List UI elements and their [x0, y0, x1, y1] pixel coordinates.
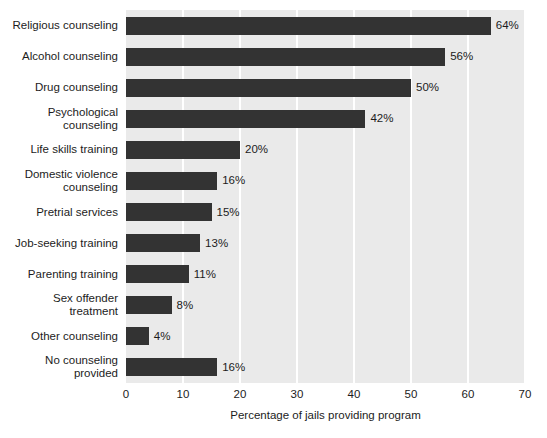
x-tick-label: 50: [405, 388, 418, 401]
category-label: Religious counseling: [0, 19, 118, 32]
x-tick-label: 60: [462, 388, 475, 401]
bar-row: No counseling provided16%: [0, 352, 547, 383]
bar-row: Domestic violence counseling16%: [0, 165, 547, 196]
bar-row: Life skills training20%: [0, 134, 547, 165]
bar-row: Parenting training11%: [0, 259, 547, 290]
bar-value-label: 64%: [496, 19, 519, 32]
bar: [126, 203, 212, 221]
bar-value-label: 56%: [450, 50, 473, 63]
bar-row: Other counseling4%: [0, 321, 547, 352]
bar: [126, 172, 217, 190]
bar: [126, 358, 217, 376]
bar: [126, 48, 445, 66]
bar-row: Drug counseling50%: [0, 72, 547, 103]
bar-value-label: 4%: [154, 330, 171, 343]
bar: [126, 265, 189, 283]
bar-value-label: 16%: [222, 361, 245, 374]
bar-value-label: 8%: [177, 299, 194, 312]
category-label: Pretrial services: [0, 206, 118, 219]
bar: [126, 296, 172, 314]
x-tick-label: 40: [348, 388, 361, 401]
x-tick-label: 10: [177, 388, 190, 401]
bar-value-label: 42%: [370, 112, 393, 125]
category-label: Parenting training: [0, 268, 118, 281]
bar-value-label: 16%: [222, 174, 245, 187]
category-label: Domestic violence counseling: [0, 168, 118, 194]
bar: [126, 17, 491, 35]
bar-row: Religious counseling64%: [0, 10, 547, 41]
category-label: No counseling provided: [0, 354, 118, 380]
bar-row: Alcohol counseling56%: [0, 41, 547, 72]
x-tick-label: 70: [519, 388, 532, 401]
category-label: Psychological counseling: [0, 106, 118, 132]
bar-row: Job-seeking training13%: [0, 228, 547, 259]
bar: [126, 79, 411, 97]
bar-row: Pretrial services15%: [0, 197, 547, 228]
x-tick-label: 30: [291, 388, 304, 401]
bar-value-label: 20%: [245, 143, 268, 156]
bar: [126, 234, 200, 252]
bar: [126, 141, 240, 159]
x-axis: Percentage of jails providing program 01…: [0, 383, 547, 438]
category-label: Sex offender treatment: [0, 292, 118, 318]
category-label: Drug counseling: [0, 81, 118, 94]
bar-chart: Religious counseling64%Alcohol counselin…: [0, 0, 547, 438]
bar-value-label: 50%: [416, 81, 439, 94]
bar-row: Sex offender treatment8%: [0, 290, 547, 321]
category-label: Other counseling: [0, 330, 118, 343]
bar-rows: Religious counseling64%Alcohol counselin…: [0, 10, 547, 383]
bar-row: Psychological counseling42%: [0, 103, 547, 134]
category-label: Alcohol counseling: [0, 50, 118, 63]
x-tick-label: 0: [123, 388, 129, 401]
bar: [126, 327, 149, 345]
bar-value-label: 15%: [217, 206, 240, 219]
x-tick-label: 20: [234, 388, 247, 401]
bar-value-label: 11%: [194, 268, 216, 281]
bar-value-label: 13%: [205, 237, 228, 250]
category-label: Life skills training: [0, 143, 118, 156]
bar: [126, 110, 365, 128]
category-label: Job-seeking training: [0, 237, 118, 250]
x-axis-title: Percentage of jails providing program: [126, 409, 525, 422]
